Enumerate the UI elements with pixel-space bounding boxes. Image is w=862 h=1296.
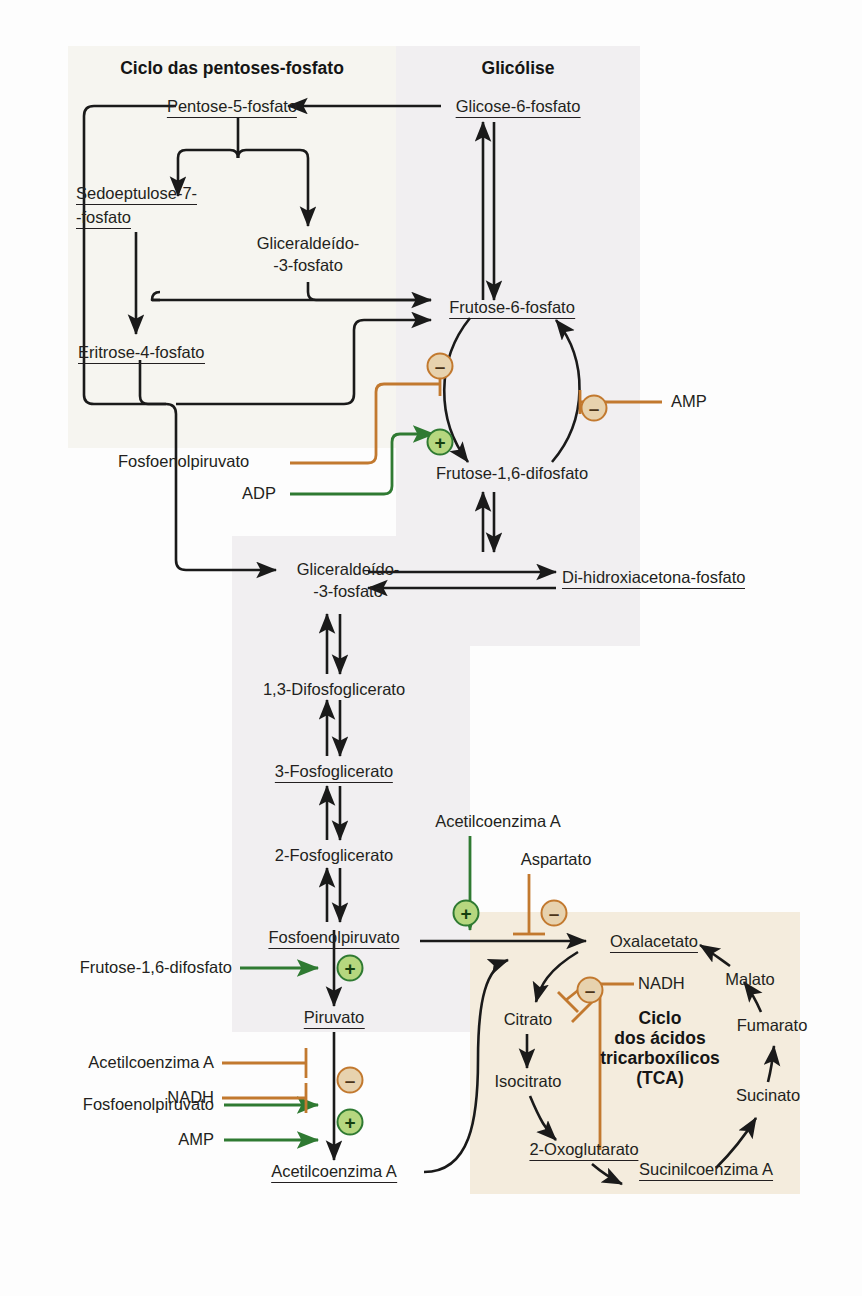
badge-minus-f6p-left: –	[427, 353, 454, 380]
tca-title-line-3: tricarboxílicos	[600, 1048, 720, 1068]
effector-frutose-1-6-difosfato: Frutose-1,6-difosfato	[80, 958, 232, 977]
metabolite-glicose-6-fosfato: Glicose-6-fosfato	[456, 97, 581, 118]
pathway-diagram: Ciclo das pentoses-fosfato Glicólise Pen…	[0, 0, 862, 1296]
metabolite-pentose-5-fosfato: Pentose-5-fosfato	[167, 97, 297, 118]
badge-plus-f16-adp: +	[427, 429, 454, 456]
badge-plus-pdh: +	[337, 1109, 364, 1136]
tca-cycle-title: Ciclo dos ácidos tricarboxílicos (TCA)	[600, 1008, 720, 1088]
metabolite-sucinilcoenzima-a: Sucinilcoenzima A	[639, 1160, 773, 1181]
metabolite-1-3-difosfoglicerato: 1,3-Difosfoglicerato	[263, 680, 405, 699]
badge-plus-pyruvate-f16: +	[337, 955, 364, 982]
effector-fosfoenolpiruvato-pentose: Fosfoenolpiruvato	[118, 452, 249, 471]
effector-aspartato: Aspartato	[521, 850, 592, 869]
effector-fosfoenolpiruvato-activate: Fosfoenolpiruvato	[83, 1095, 214, 1114]
badge-minus-tca-nadh: –	[577, 977, 604, 1004]
metabolite-frutose-1-6-difosfato: Frutose-1,6-difosfato	[436, 464, 588, 483]
metabolite-eritrose-4-fosfato: Eritrose-4-fosfato	[78, 343, 205, 364]
effector-acetilcoenzima-a-top: Acetilcoenzima A	[435, 812, 561, 831]
effector-acetilcoenzima-a-inhibit: Acetilcoenzima A	[88, 1053, 214, 1072]
metabolite-sedoeptulose-7-fosfato-line1: Sedoeptulose-7-	[76, 184, 197, 205]
metabolite-gliceraldeido-3-fosfato-pentose-line1: Gliceraldeído-	[257, 234, 360, 253]
glycolysis-title: Glicólise	[482, 58, 555, 79]
pentose-cycle-title: Ciclo das pentoses-fosfato	[120, 58, 344, 79]
metabolite-di-hidroxiacetona-fosfato: Di-hidroxiacetona-fosfato	[562, 568, 745, 589]
metabolite-2-oxoglutarato: 2-Oxoglutarato	[529, 1140, 638, 1161]
metabolite-gliceraldeido-3-fosfato-line1: Gliceraldeído-	[297, 560, 400, 579]
metabolite-2-fosfoglicerato: 2-Fosfoglicerato	[275, 846, 393, 865]
metabolite-malato: Malato	[725, 970, 775, 989]
metabolite-gliceraldeido-3-fosfato-line2: -3-fosfato	[313, 582, 383, 601]
tca-title-line-1: Ciclo	[639, 1008, 682, 1028]
badge-minus-pdh: –	[337, 1067, 364, 1094]
metabolite-3-fosfoglicerato: 3-Fosfoglicerato	[275, 762, 393, 783]
effector-amp-activate: AMP	[178, 1130, 214, 1149]
badge-minus-oaa-aspartato: –	[541, 900, 568, 927]
tca-title-line-4: (TCA)	[636, 1068, 684, 1088]
metabolite-sucinato: Sucinato	[736, 1086, 800, 1105]
badge-minus-f6p-right: –	[581, 395, 608, 422]
tca-title-line-2: dos ácidos	[614, 1028, 705, 1048]
metabolite-gliceraldeido-3-fosfato-pentose-line2: -3-fosfato	[273, 256, 343, 275]
metabolite-frutose-6-fosfato: Frutose-6-fosfato	[449, 298, 575, 319]
metabolite-piruvato: Piruvato	[304, 1008, 365, 1029]
effector-adp: ADP	[242, 484, 276, 503]
badge-plus-pep-oaa: +	[453, 900, 480, 927]
metabolite-citrato: Citrato	[504, 1010, 553, 1029]
metabolite-acetilcoenzima-a-bottom: Acetilcoenzima A	[271, 1162, 397, 1183]
metabolite-oxalacetato: Oxalacetato	[610, 932, 698, 953]
metabolite-sedoeptulose-7-fosfato-line2: -fosfato	[76, 208, 131, 229]
metabolite-fumarato: Fumarato	[737, 1016, 808, 1035]
effector-amp-top: AMP	[671, 392, 707, 411]
metabolite-isocitrato: Isocitrato	[495, 1072, 562, 1091]
effector-nadh-tca: NADH	[638, 974, 685, 993]
metabolite-fosfoenolpiruvato-main: Fosfoenolpiruvato	[268, 928, 399, 949]
